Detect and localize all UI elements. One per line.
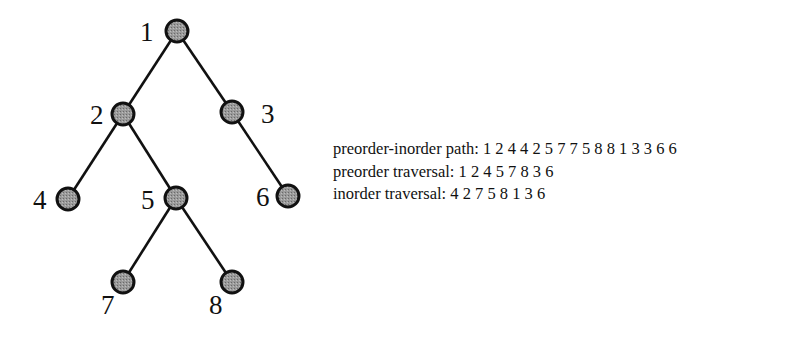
preorder-values: 1 2 4 5 7 8 3 6: [459, 162, 554, 181]
node-circle: [112, 103, 134, 125]
tree-node-2: 2: [90, 100, 134, 130]
tree-node-1: 1: [140, 17, 188, 47]
node-label: 4: [33, 185, 47, 215]
tree-node-3: 3: [221, 99, 275, 129]
node-label: 6: [256, 182, 270, 212]
node-label: 2: [90, 100, 104, 130]
tree-edge-5-8: [176, 198, 232, 282]
path-values: 1 2 4 4 2 5 7 7 5 8 8 1 3 3 6 6: [483, 139, 677, 158]
node-circle: [112, 271, 134, 293]
path-label: preorder-inorder path:: [333, 139, 479, 158]
traversal-legend: preorder-inorder path: 1 2 4 4 2 5 7 7 5…: [333, 138, 677, 206]
node-label: 8: [209, 290, 223, 320]
tree-edge-1-3: [177, 31, 232, 112]
node-circle: [221, 101, 243, 123]
node-label: 7: [101, 290, 115, 320]
node-label: 3: [261, 99, 275, 129]
node-label: 5: [141, 185, 155, 215]
tree-edges: [68, 31, 288, 282]
tree-node-7: 7: [101, 271, 134, 320]
tree-nodes: 12345678: [33, 17, 299, 320]
inorder-traversal-line: inorder traversal: 4 2 7 5 8 1 3 6: [333, 183, 677, 206]
node-circle: [57, 188, 79, 210]
node-circle: [165, 187, 187, 209]
preorder-traversal-line: preorder traversal: 1 2 4 5 7 8 3 6: [333, 161, 677, 184]
tree-node-6: 6: [256, 182, 299, 212]
tree-node-8: 8: [209, 271, 243, 320]
node-circle: [221, 271, 243, 293]
tree-node-4: 4: [33, 185, 79, 215]
preorder-inorder-path-line: preorder-inorder path: 1 2 4 4 2 5 7 7 5…: [333, 138, 677, 161]
preorder-label: preorder traversal:: [333, 162, 454, 181]
inorder-values: 4 2 7 5 8 1 3 6: [450, 184, 545, 203]
tree-node-5: 5: [141, 185, 187, 215]
node-circle: [277, 185, 299, 207]
node-label: 1: [140, 17, 154, 47]
inorder-label: inorder traversal:: [333, 184, 446, 203]
node-circle: [166, 20, 188, 42]
